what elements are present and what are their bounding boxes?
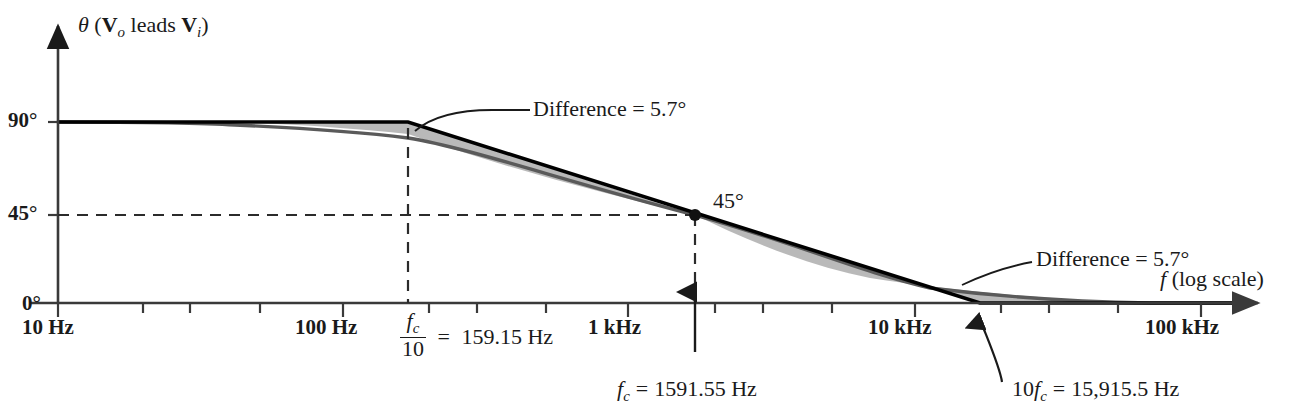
ten-fc-value: 15,915.5 Hz xyxy=(1071,376,1179,401)
annotation-difference-lower: Difference = 5.7° xyxy=(1036,248,1189,270)
fc-subscript: c xyxy=(623,388,630,404)
y-axis-vo-subscript: o xyxy=(118,24,125,40)
annotation-midpoint-45: 45° xyxy=(713,190,744,212)
fc-over-10-value: 159.15 Hz xyxy=(461,324,553,349)
x-tick-label-100khz: 100 kHz xyxy=(1145,317,1219,338)
midpoint-marker-dot xyxy=(689,209,701,221)
fraction-numerator-sub: c xyxy=(413,320,420,336)
fc-over-10-equals: = xyxy=(432,324,456,349)
x-tick-label-1khz: 1 kHz xyxy=(588,317,641,338)
fraction-numerator: fc xyxy=(400,310,426,338)
annotation-fc-value: fc=1591.55 Hz xyxy=(617,378,757,404)
fraction-fc-over-10: fc 10 xyxy=(400,310,426,360)
x-axis-title: f (log scale) xyxy=(1160,268,1264,290)
bode-phase-plot-figure: θ (Vo leads Vi) f (log scale) 90° 45° 0°… xyxy=(0,0,1291,416)
fraction-denominator: 10 xyxy=(400,338,426,360)
y-tick-label-0: 0° xyxy=(22,293,41,314)
ten-fc-equals: = xyxy=(1047,376,1071,401)
x-tick-label-100hz: 100 Hz xyxy=(295,317,357,338)
y-axis-theta-symbol: θ xyxy=(78,12,89,37)
actual-phase-curve xyxy=(58,122,1245,303)
y-axis-title: θ (Vo leads Vi) xyxy=(78,14,209,40)
annotation-ten-fc-value: 10fc=15,915.5 Hz xyxy=(1012,378,1179,404)
y-axis-leads-text: leads xyxy=(125,12,181,37)
fc-value: 1591.55 Hz xyxy=(654,376,757,401)
y-axis-vi-symbol: V xyxy=(181,12,197,37)
ten-fc-subscript: c xyxy=(1040,388,1047,404)
y-axis-vo-symbol: V xyxy=(102,12,118,37)
annotation-difference-upper: Difference = 5.7° xyxy=(533,98,686,120)
y-axis-paren-open: ( xyxy=(89,12,102,37)
y-tick-label-45: 45° xyxy=(8,203,37,224)
fc-equals: = xyxy=(630,376,654,401)
construction-dashed-lines xyxy=(58,128,695,303)
y-axis-ticks xyxy=(48,122,58,215)
ten-fc-prefix: 10 xyxy=(1012,376,1034,401)
y-axis-paren-close: ) xyxy=(201,12,208,37)
plot-graphics xyxy=(0,0,1291,416)
y-tick-label-90: 90° xyxy=(8,110,37,131)
asymptote-line xyxy=(58,122,1245,303)
leader-line-lower-difference xyxy=(962,262,1032,285)
pointer-arrow-ten-fc xyxy=(981,322,1002,382)
x-tick-label-10hz: 10 Hz xyxy=(22,317,74,338)
annotation-fc-over-10: fc 10 = 159.15 Hz xyxy=(400,310,553,360)
shaded-region-upper xyxy=(235,122,695,215)
x-tick-label-10khz: 10 kHz xyxy=(868,317,932,338)
